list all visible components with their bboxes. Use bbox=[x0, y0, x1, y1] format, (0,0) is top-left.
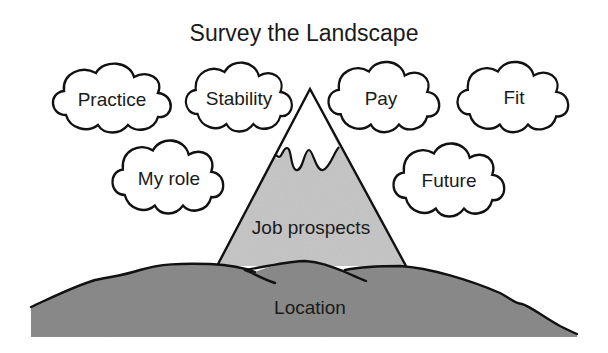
mountain-label: Job prospects bbox=[252, 217, 370, 239]
diagram-canvas: Survey the Landscape Practice Stability … bbox=[0, 0, 608, 353]
cloud-label-stability: Stability bbox=[206, 88, 273, 110]
cloud-label-my-role: My role bbox=[138, 168, 200, 190]
cloud-label-practice: Practice bbox=[78, 89, 147, 111]
cloud-label-pay: Pay bbox=[365, 88, 398, 110]
cloud-label-future: Future bbox=[422, 170, 477, 192]
ground-label: Location bbox=[274, 297, 346, 319]
diagram-title: Survey the Landscape bbox=[0, 20, 608, 47]
cloud-label-fit: Fit bbox=[503, 87, 524, 109]
